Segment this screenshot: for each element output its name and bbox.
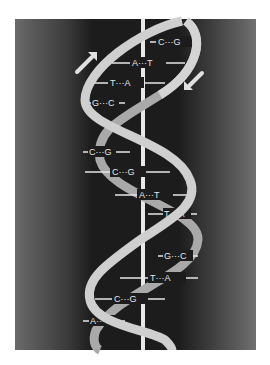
base-pair-9: G···C xyxy=(158,250,198,261)
base-pair-label: C···G xyxy=(112,167,135,177)
base-pair-label: A···T xyxy=(139,190,160,200)
base-pair-label: G···C xyxy=(92,98,115,108)
base-pair-label: C···G xyxy=(89,147,112,157)
base-pair-label: A···T xyxy=(132,58,153,68)
base-pair-label: T···A xyxy=(110,78,131,88)
base-pair-label: C···G xyxy=(114,294,137,304)
dna-double-helix-figure: C···G A···T T···A G···C C···G xyxy=(0,0,270,365)
base-pair-label: T···A xyxy=(150,273,171,283)
base-pair-label: G···C xyxy=(164,251,187,261)
base-pair-label: C···G xyxy=(158,37,181,47)
base-pair-1: C···G xyxy=(150,36,196,47)
